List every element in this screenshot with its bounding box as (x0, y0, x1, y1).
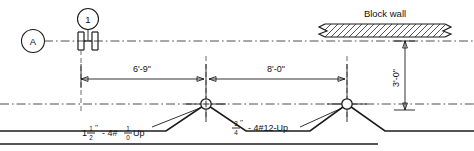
block-wall-hatch (312, 24, 452, 37)
dim-horizontal-right: 8'-0'' (209, 64, 347, 88)
dim-vertical-right: 3'-0'' (391, 41, 415, 110)
note-left-frac-den: 2 (89, 134, 93, 141)
leader-note-right (300, 108, 342, 127)
note-left-whole: 1 (82, 128, 87, 138)
dim-vert-text: 3'-0'' (391, 69, 401, 87)
note-left-frac2-den: 0 (126, 134, 130, 141)
grid-bubble-1[interactable]: 1 (78, 9, 99, 42)
dim-horizontal-left: 6'-9'' (81, 64, 206, 88)
plan-canvas: 1 A Block wall (0, 0, 474, 151)
note-right-text: - 4#12-Up (248, 123, 288, 133)
junction-node-open[interactable] (327, 88, 367, 122)
note-right-inch-mark: '' (240, 118, 244, 127)
block-wall-break-left (319, 24, 327, 37)
note-left-frac-num: 1 (89, 125, 93, 132)
note-left-inch-mark: '' (95, 123, 99, 132)
dim-right-text: 8'-0'' (267, 64, 285, 74)
note-left-frac2-num: 1 (126, 125, 130, 132)
note-left-suffix: Up (133, 128, 145, 138)
grid-bubble-a[interactable]: A (22, 30, 45, 53)
dim-left-text: 6'-9'' (133, 64, 151, 74)
note-left-mid: - 4# (102, 128, 118, 138)
node-2-circle (342, 99, 352, 109)
conduit-note-left: 1 1 2 '' - 4# 1 0 Up (82, 123, 145, 141)
block-wall-label: Block wall (364, 8, 406, 19)
grid-bubble-a-label: A (30, 36, 37, 47)
block-wall: Block wall (312, 8, 452, 37)
note-right-frac-num: 3 (234, 120, 238, 127)
junction-node-crossed[interactable] (186, 88, 226, 122)
structural-plan-drawing: 1 A Block wall (0, 0, 474, 151)
note-right-frac-den: 4 (234, 129, 238, 136)
grid-bubble-1-label: 1 (85, 14, 90, 25)
